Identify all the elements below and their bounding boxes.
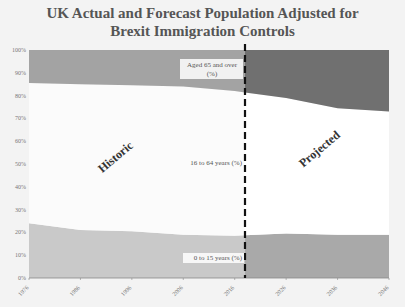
y-tick-label: 0% bbox=[18, 275, 26, 281]
x-tick-label: 1996 bbox=[120, 284, 133, 297]
x-tick-label: 1986 bbox=[68, 284, 81, 297]
y-tick-label: 90% bbox=[15, 70, 26, 76]
y-tick-label: 80% bbox=[15, 93, 26, 99]
y-tick-label: 10% bbox=[15, 252, 26, 258]
y-tick-label: 70% bbox=[15, 115, 26, 121]
x-tick-label: 2046 bbox=[377, 284, 390, 297]
y-tick-label: 100% bbox=[12, 47, 26, 53]
x-tick-label: 2036 bbox=[326, 284, 339, 297]
y-tick-label: 60% bbox=[15, 138, 26, 144]
area-chart: 0%10%20%30%40%50%60%70%80%90%100%1976198… bbox=[0, 0, 405, 307]
y-tick-label: 20% bbox=[15, 229, 26, 235]
band-label-16-64: 16 to 64 years (%) bbox=[190, 159, 242, 167]
band-label-0-15: 0 to 15 years (%) bbox=[194, 254, 243, 262]
x-tick-label: 2016 bbox=[223, 284, 236, 297]
y-tick-label: 50% bbox=[15, 161, 26, 167]
x-tick-label: 2006 bbox=[171, 284, 184, 297]
y-tick-label: 40% bbox=[15, 184, 26, 190]
x-tick-label: 2026 bbox=[274, 284, 287, 297]
x-tick-label: 1976 bbox=[17, 284, 30, 297]
band-label-65-plus: Aged 65 and over bbox=[187, 61, 238, 69]
band-label-65-plus-unit: (%) bbox=[207, 70, 218, 78]
y-tick-label: 30% bbox=[15, 207, 26, 213]
